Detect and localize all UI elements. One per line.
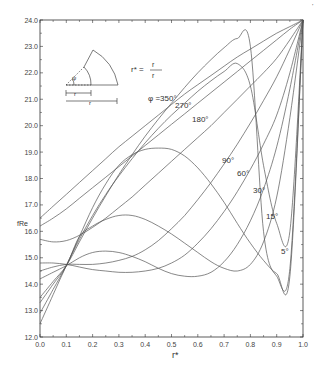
formula: r* = r r [131, 61, 162, 79]
y-tick-label: 21.0 [24, 96, 38, 103]
x-axis-label: r* [172, 350, 179, 360]
y-tick-label: 15.0 [24, 254, 38, 261]
y-tick-label: 12.0 [24, 334, 38, 341]
x-tick-label: 0.7 [219, 341, 229, 348]
curves [40, 20, 303, 324]
y-tick-label: 22.0 [24, 69, 38, 76]
inset-ro-dimension [66, 98, 117, 104]
formula-num: r [152, 61, 155, 68]
curve-label: 30° [253, 186, 265, 195]
x-tick-label: 0.5 [167, 341, 177, 348]
plot-frame [40, 20, 303, 337]
inset-ro-label: r [89, 100, 91, 106]
inset-psi-label: ψ [72, 75, 76, 81]
y-tick-label: 16.0 [24, 228, 38, 235]
curve-label: 180° [192, 115, 209, 124]
x-tick-label: 0.3 [114, 341, 124, 348]
curve-label: 15° [266, 212, 278, 221]
y-axis-label: fRe [17, 220, 28, 227]
formula-den: r [152, 72, 155, 79]
curve-label: φ =350° [148, 94, 177, 103]
axes: 0.00.10.20.30.40.50.60.70.80.91.012.013.… [24, 17, 308, 349]
inset-ri-dimension [66, 90, 91, 96]
x-tick-label: 0.4 [140, 341, 150, 348]
x-tick-label: 0.2 [88, 341, 98, 348]
y-tick-label: 14.0 [24, 281, 38, 288]
x-tick-label: 0.0 [35, 341, 45, 348]
x-tick-label: 0.9 [272, 341, 282, 348]
x-tick-label: 1.0 [298, 341, 308, 348]
inset-inner-arc [84, 67, 91, 85]
inset-edge [84, 50, 93, 67]
curve-series-9 [40, 20, 303, 297]
y-tick-label: 20.0 [24, 122, 38, 129]
curve-label: 270° [175, 101, 192, 110]
page-mark: ’ [312, 3, 313, 9]
curve-series-8 [40, 20, 303, 324]
formula-lhs: r* = [131, 65, 144, 74]
x-tick-label: 0.1 [61, 341, 71, 348]
y-tick-label: 23.0 [24, 43, 38, 50]
curve-label: 60° [237, 169, 249, 178]
y-tick-label: 19.0 [24, 149, 38, 156]
x-tick-label: 0.8 [246, 341, 256, 348]
y-tick-label: 18.0 [24, 175, 38, 182]
y-tick-label: 13.0 [24, 307, 38, 314]
curve-series-2 [40, 20, 303, 242]
y-tick-label: 24.0 [24, 17, 38, 24]
y-tick-label: 17.0 [24, 201, 38, 208]
inset-ri-label: r [74, 91, 76, 97]
chart: ψ r r r* = r r 0.00.10.20.30.40.50.60.70… [0, 0, 318, 374]
curve-series-1 [40, 20, 303, 226]
curve-label: 5° [281, 247, 289, 256]
x-tick-label: 0.6 [193, 341, 203, 348]
curve-label: 90° [222, 156, 234, 165]
